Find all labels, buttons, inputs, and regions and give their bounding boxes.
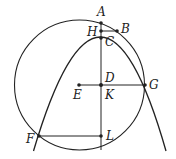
label-c: C	[105, 35, 114, 49]
parabola	[34, 37, 167, 151]
label-h: H	[86, 25, 98, 39]
point-b	[115, 29, 119, 33]
label-b: B	[120, 22, 130, 36]
label-k: K	[104, 88, 115, 102]
point-f	[37, 134, 41, 138]
label-a: A	[96, 5, 106, 19]
label-f: F	[25, 132, 35, 146]
point-a	[99, 21, 103, 25]
point-d	[99, 83, 103, 87]
point-l	[99, 134, 103, 138]
point-c	[99, 36, 103, 40]
label-e: E	[72, 88, 82, 102]
geometry-diagram: A B H C D K E G F L	[0, 0, 176, 159]
label-g: G	[149, 78, 159, 92]
point-e	[77, 83, 81, 87]
label-d: D	[104, 71, 115, 85]
label-l: L	[105, 129, 114, 143]
point-h	[99, 29, 103, 33]
point-g	[143, 83, 147, 87]
